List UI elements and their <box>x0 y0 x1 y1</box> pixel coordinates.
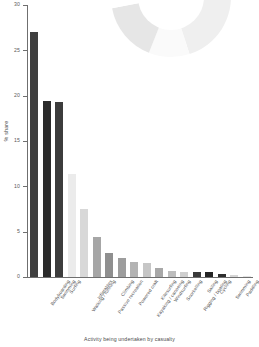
bar <box>230 275 238 277</box>
bar <box>118 258 126 277</box>
chart-page: 051015202530 % share BodyboardingSwimmin… <box>0 0 259 347</box>
bar <box>243 276 251 277</box>
y-tick-mark <box>23 50 27 51</box>
bar <box>155 268 163 277</box>
bar <box>43 101 51 277</box>
y-tick-label: 25 <box>0 48 20 53</box>
bar <box>218 274 226 277</box>
y-tick-label: 10 <box>0 184 20 189</box>
bars-container <box>28 5 253 277</box>
bar <box>68 174 76 277</box>
x-axis-tick-labels: BodyboardingSwimmingSurfingWalking / run… <box>28 279 253 339</box>
bar <box>30 32 38 277</box>
y-tick-label: 30 <box>0 2 20 7</box>
x-axis-line <box>27 277 253 278</box>
bar <box>143 263 151 278</box>
y-tick-mark <box>23 232 27 233</box>
x-axis-label: Activity being undertaken by casualty <box>0 336 259 342</box>
bar <box>105 253 113 277</box>
bar-chart: 051015202530 % share BodyboardingSwimmin… <box>0 0 259 347</box>
bar <box>168 271 176 277</box>
bar <box>205 272 213 277</box>
y-tick-mark <box>23 141 27 142</box>
y-tick-mark <box>23 186 27 187</box>
bar <box>130 262 138 277</box>
bar <box>93 237 101 277</box>
y-tick-label: 0 <box>0 274 20 279</box>
y-tick-label: 20 <box>0 93 20 98</box>
y-tick-mark <box>23 5 27 6</box>
y-tick-mark <box>23 96 27 97</box>
bar <box>80 209 88 277</box>
y-tick-label: 5 <box>0 229 20 234</box>
y-axis-label: % share <box>3 106 9 156</box>
bar <box>55 102 63 277</box>
bar <box>180 272 188 277</box>
bar <box>193 272 201 277</box>
y-tick-mark <box>23 277 27 278</box>
